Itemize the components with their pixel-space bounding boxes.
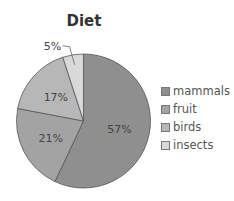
legend: mammalsfruitbirdsinsects (161, 82, 230, 154)
legend-item-fruit: fruit (161, 100, 230, 118)
legend-label: fruit (173, 102, 197, 116)
legend-label: mammals (173, 84, 230, 98)
legend-swatch (161, 105, 170, 114)
slice-label-fruit: 21% (38, 132, 62, 145)
legend-label: insects (173, 138, 213, 152)
slice-label-birds: 17% (44, 91, 68, 104)
legend-swatch (161, 87, 170, 96)
slice-label-mammals: 57% (107, 123, 131, 136)
legend-item-mammals: mammals (161, 82, 230, 100)
slice-label-insects: 5% (44, 40, 61, 53)
legend-label: birds (173, 120, 201, 134)
legend-item-insects: insects (161, 136, 230, 154)
legend-swatch (161, 141, 170, 150)
legend-swatch (161, 123, 170, 132)
legend-item-birds: birds (161, 118, 230, 136)
